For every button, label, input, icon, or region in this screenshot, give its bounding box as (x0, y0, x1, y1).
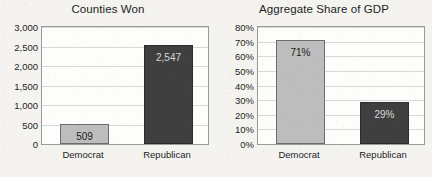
y-axis-tick-label: 40% (216, 80, 254, 91)
y-axis-tick-label: 30% (216, 95, 254, 106)
bar-republican[interactable]: 29% (360, 102, 409, 144)
bar-value-label: 71% (277, 47, 324, 58)
bar-democrat[interactable]: 71% (276, 40, 325, 144)
x-axis-category-democrat: Democrat (257, 149, 341, 160)
bar-republican[interactable]: 2,547 (144, 45, 193, 144)
gridline (258, 27, 424, 28)
y-axis-tick-label: 1,000 (0, 100, 38, 111)
y-axis-counties-won: 3,0002,5002,0001,5001,0005000 (0, 26, 38, 145)
x-axis-counties-won: DemocratRepublican (41, 149, 209, 167)
bar-value-label: 509 (61, 131, 108, 142)
x-axis-category-democrat: Democrat (41, 149, 125, 160)
bar-value-label: 29% (361, 109, 408, 120)
chart-title-aggregate-share-of-gdp: Aggregate Share of GDP (216, 3, 432, 15)
y-axis-tick-label: 10% (216, 124, 254, 135)
x-axis-category-republican: Republican (125, 149, 209, 160)
plot-area-counties-won: 5092,547 (41, 26, 209, 145)
bar-democrat[interactable]: 509 (60, 124, 109, 144)
y-axis-tick-label: 70% (216, 36, 254, 47)
y-axis-tick-label: 3,000 (0, 22, 38, 33)
y-axis-tick-label: 60% (216, 51, 254, 62)
y-axis-tick-label: 50% (216, 65, 254, 76)
figure-two-bar-charts: Counties Won 3,0002,5002,0001,5001,00050… (0, 0, 432, 177)
y-axis-tick-label: 2,000 (0, 61, 38, 72)
chart-title-counties-won: Counties Won (0, 3, 216, 15)
y-axis-tick-label: 0 (0, 139, 38, 150)
gridline (42, 27, 208, 28)
y-axis-tick-label: 20% (216, 109, 254, 120)
y-axis-tick-label: 0% (216, 139, 254, 150)
x-axis-aggregate-share-of-gdp: DemocratRepublican (257, 149, 425, 167)
bar-value-label: 2,547 (145, 52, 192, 63)
y-axis-tick-label: 2,500 (0, 41, 38, 52)
plot-area-aggregate-share-of-gdp: 71%29% (257, 26, 425, 145)
y-axis-aggregate-share-of-gdp: 80%70%60%50%40%30%20%10%0% (216, 26, 254, 145)
chart-counties-won: Counties Won 3,0002,5002,0001,5001,00050… (0, 0, 216, 177)
y-axis-tick-label: 1,500 (0, 80, 38, 91)
x-axis-category-republican: Republican (341, 149, 425, 160)
chart-aggregate-share-of-gdp: Aggregate Share of GDP 80%70%60%50%40%30… (216, 0, 432, 177)
y-axis-tick-label: 80% (216, 22, 254, 33)
y-axis-tick-label: 500 (0, 119, 38, 130)
